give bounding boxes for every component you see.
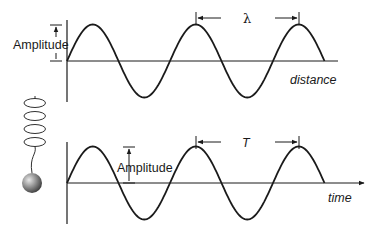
spring-coil	[24, 96, 45, 173]
distance-axis-label: distance	[290, 73, 337, 87]
period-symbol: T	[242, 136, 251, 150]
bottom-panel: Amplitude T time	[67, 136, 364, 224]
bottom-amplitude-label: Amplitude	[117, 161, 173, 175]
time-axis-label: time	[328, 191, 352, 205]
wave-diagram: Amplitude λ distance Amplitude	[0, 0, 378, 235]
mass-ball	[22, 173, 42, 193]
top-amplitude-label: Amplitude	[13, 38, 69, 52]
spring-mass-icon	[22, 96, 45, 193]
top-panel: Amplitude λ distance	[12, 11, 338, 102]
wavelength-symbol: λ	[243, 11, 251, 26]
